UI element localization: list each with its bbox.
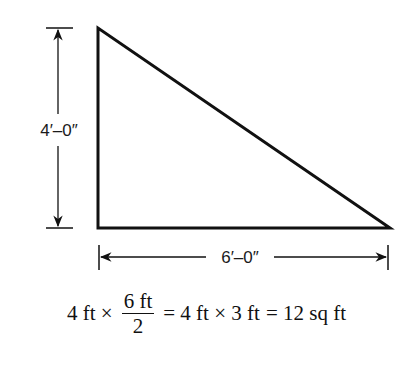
formula-term1: 4 ft × [64,301,116,326]
right-triangle [98,28,390,228]
area-formula: 4 ft × 6 ft 2 = 4 ft × 3 ft = 12 sq ft [0,290,413,337]
triangle-diagram: 4′–0″ 6′–0″ [0,0,413,285]
height-dimension: 4′–0″ [40,28,78,228]
fraction-denominator: 2 [133,314,144,337]
height-label: 4′–0″ [40,121,78,140]
formula-fraction: 6 ft 2 [122,290,155,337]
formula-result: = 12 sq ft [263,301,349,326]
width-label: 6′–0″ [221,248,259,267]
width-dimension: 6′–0″ [99,245,388,270]
fraction-numerator: 6 ft [122,290,155,314]
formula-step2: = 4 ft × 3 ft [160,301,263,326]
